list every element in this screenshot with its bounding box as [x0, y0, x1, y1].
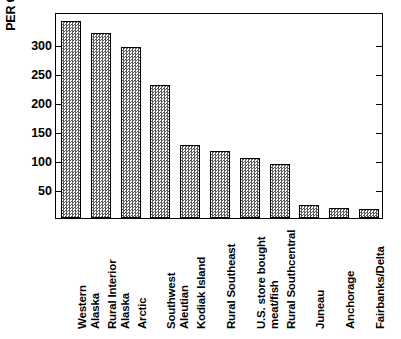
x-axis-category-label: Arctic: [120, 221, 140, 331]
x-axis-category-label-text: Rural Southcentral: [285, 230, 298, 329]
bar: [91, 33, 111, 218]
x-axis-category-label: U.S. store bought meat/fish: [239, 221, 259, 331]
bar-chart-figure: PER CAPITA (kg) 50100150200250300 Wester…: [0, 0, 401, 339]
x-axis-category-label: Southwest Aleutian: [149, 221, 169, 331]
y-tick-label: 50: [38, 185, 52, 198]
y-axis-title: PER CAPITA (kg): [0, 0, 22, 62]
x-axis-category-label-text: Fairbanks/Delta: [374, 246, 387, 329]
bar: [61, 21, 81, 218]
y-tick-label: 100: [31, 156, 52, 169]
bar: [329, 208, 349, 218]
y-tick-label: 250: [31, 69, 52, 82]
bar: [150, 85, 170, 218]
bar: [270, 164, 290, 218]
bar: [240, 158, 260, 218]
x-axis-category-label-text: Juneau: [314, 290, 327, 329]
x-axis-category-label: Fairbanks/Delta: [358, 221, 378, 331]
x-axis-category-label-text: Arctic: [136, 298, 149, 329]
bar: [180, 145, 200, 218]
x-axis-category-label: Juneau: [298, 221, 318, 331]
plot-frame: 50100150200250300: [55, 13, 383, 219]
bar: [210, 151, 230, 218]
y-tick-label: 150: [31, 127, 52, 140]
y-tick-label: 200: [31, 98, 52, 111]
x-axis-category-label: Rural Southcentral: [269, 221, 289, 331]
x-axis-category-label-text: Rural Southeast: [225, 244, 238, 329]
x-axis-category-label: Anchorage: [328, 221, 348, 331]
x-axis-category-label: Rural Southeast: [209, 221, 229, 331]
bars-layer: [56, 14, 382, 218]
bar: [359, 209, 379, 218]
bar: [299, 205, 319, 218]
x-axis-category-label: Rural Interior Alaska: [90, 221, 110, 331]
x-axis-category-label: Western Alaska: [60, 221, 80, 331]
x-axis-category-label-text: Kodiak Island: [195, 257, 208, 329]
x-axis-category-label: Kodiak Island: [179, 221, 199, 331]
bar: [121, 47, 141, 218]
x-axis-category-label-text: Anchorage: [344, 271, 357, 329]
x-axis-category-labels: Western AlaskaRural Interior AlaskaArcti…: [55, 221, 383, 333]
bottom-caption-sliver: [0, 331, 401, 339]
y-tick-label: 300: [31, 40, 52, 53]
